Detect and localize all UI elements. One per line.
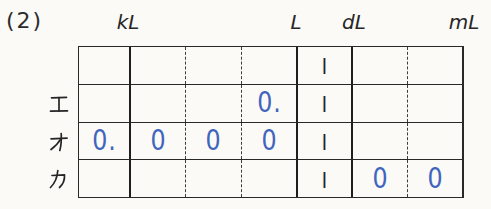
row-label-o [48, 131, 70, 153]
digit-cell [408, 47, 462, 84]
katakana-ka-glyph [48, 168, 70, 190]
unit-label-l: L [290, 10, 301, 34]
digit-cell [353, 123, 408, 160]
table-row: | [79, 47, 462, 85]
digit-cell: | [298, 123, 353, 160]
digit-cell: 0 [353, 160, 408, 197]
preprinted-one-mark: | [322, 95, 328, 111]
katakana-e-glyph [48, 93, 70, 115]
digit-cell [131, 85, 186, 122]
digit-cell [79, 47, 131, 84]
row-label-ka [48, 168, 70, 190]
digit-cell [242, 160, 298, 197]
place-value-conversion-table: | 0. | 0. 0 0 0 | | 0 [78, 46, 464, 198]
digit-cell: | [298, 85, 353, 122]
digit-cell: 0 [186, 123, 242, 160]
digit-cell [408, 123, 462, 160]
digit-cell [186, 47, 242, 84]
digit-cell: | [298, 160, 353, 197]
digit-cell [353, 85, 408, 122]
handwritten-answer: 0 [372, 165, 388, 193]
handwritten-answer: 0 [427, 165, 443, 193]
digit-cell [131, 47, 186, 84]
preprinted-one-mark: | [322, 133, 328, 149]
digit-cell [408, 85, 462, 122]
worksheet-page: (2) kL L dL mL | 0. [0, 0, 491, 209]
table-row: 0. | [79, 85, 462, 123]
unit-label-dl: dL [342, 10, 366, 34]
table-row: 0. 0 0 0 | [79, 123, 462, 161]
digit-cell: 0. [242, 85, 298, 122]
handwritten-answer: 0 [150, 127, 166, 155]
unit-label-ml: mL [449, 10, 480, 34]
digit-cell: 0 [242, 123, 298, 160]
digit-cell [242, 47, 298, 84]
unit-label-kl: kL [117, 10, 140, 34]
digit-cell: 0 [408, 160, 462, 197]
digit-cell [186, 85, 242, 122]
digit-cell: 0. [79, 123, 131, 160]
digit-cell [79, 160, 131, 197]
preprinted-one-mark: | [322, 171, 328, 187]
problem-number: (2) [6, 8, 43, 33]
digit-cell [131, 160, 186, 197]
handwritten-answer: 0. [257, 89, 281, 117]
handwritten-answer: 0. [92, 127, 116, 155]
digit-cell: 0 [131, 123, 186, 160]
digit-cell [79, 85, 131, 122]
table-row: | 0 0 [79, 160, 462, 197]
handwritten-answer: 0 [261, 127, 277, 155]
digit-cell [353, 47, 408, 84]
preprinted-one-mark: | [322, 57, 328, 73]
digit-cell [186, 160, 242, 197]
digit-cell: | [298, 47, 353, 84]
handwritten-answer: 0 [205, 127, 221, 155]
katakana-o-glyph [48, 131, 70, 153]
row-label-e [48, 93, 70, 115]
